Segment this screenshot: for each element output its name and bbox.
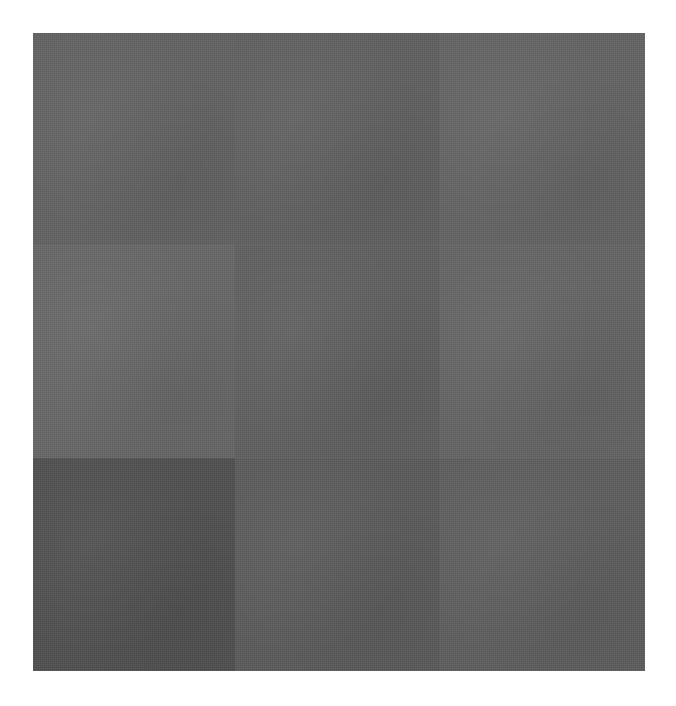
texture-tile <box>440 245 645 458</box>
texture-tile <box>33 458 235 671</box>
texture-tile <box>440 458 645 671</box>
texture-tile <box>33 245 235 458</box>
texture-tile <box>440 33 645 245</box>
texture-tile <box>235 33 440 245</box>
image-canvas <box>0 0 676 706</box>
texture-tile <box>33 33 235 245</box>
gray-texture-square <box>33 33 645 671</box>
texture-tile <box>235 245 440 458</box>
texture-tile <box>235 458 440 671</box>
